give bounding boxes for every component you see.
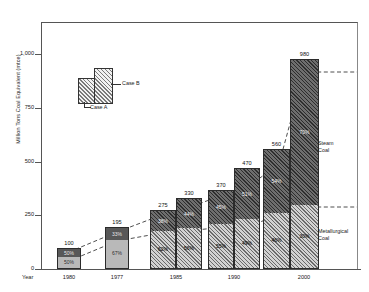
segment-steam-percent: 50% <box>64 251 74 256</box>
bar-1990-case-b[interactable]: 51%49% <box>234 168 260 269</box>
segment-metallurgical-coal: 67% <box>106 240 128 268</box>
bar-total-label-1990-case-a: 370 <box>208 182 234 188</box>
steam-coal-annotation-line1: Steam <box>318 140 334 147</box>
bar-total-label-1977-case-a: 195 <box>105 219 129 225</box>
x-tick-label-1985: 1985 <box>160 274 192 280</box>
segment-steam-coal: 44% <box>177 199 201 230</box>
bar-total-label-2000-case-a: 560 <box>263 141 290 147</box>
legend-label-case-b: Case B <box>122 80 140 86</box>
x-tick-label-1980: 1980 <box>53 274 85 280</box>
bar-1985-case-a[interactable]: 38%62% <box>150 210 176 269</box>
bar-1980-case-a[interactable]: 50%50% <box>57 248 81 269</box>
segment-steam-coal: 45% <box>209 191 233 227</box>
segment-met-percent: 56% <box>184 246 194 251</box>
segment-metallurgical-coal: 49% <box>235 219 259 268</box>
segment-metallurgical-coal: 55% <box>209 224 233 268</box>
bar-1977-case-a[interactable]: 33%67% <box>105 227 129 269</box>
legend-swatch-case-b <box>94 68 113 104</box>
x-tick-label-1977: 1977 <box>101 274 133 280</box>
y-tick-mark <box>35 54 41 55</box>
legend-leader-case-b <box>111 84 121 85</box>
bar-total-label-1985-case-a: 275 <box>150 202 176 208</box>
y-tick-label: 750 <box>25 104 34 110</box>
steam-coal-annotation: Steam Coal <box>318 140 334 155</box>
met-coal-annotation-line1: Metallurgical <box>318 228 348 235</box>
bar-2000-case-a[interactable]: 54%46% <box>263 149 290 269</box>
bar-1990-case-a[interactable]: 45%55% <box>208 190 234 269</box>
segment-steam-coal: 38% <box>151 211 175 233</box>
y-tick-mark <box>35 108 41 109</box>
segment-steam-percent: 44% <box>184 212 194 217</box>
bar-total-label-1990-case-b: 470 <box>234 160 260 166</box>
x-axis-line <box>41 269 361 270</box>
x-tick-label-1990: 1990 <box>218 274 250 280</box>
segment-met-percent: 50% <box>64 260 74 265</box>
segment-met-percent: 46% <box>271 238 281 243</box>
segment-steam-percent: 70% <box>299 130 309 135</box>
bar-total-label-1980-case-a: 100 <box>57 240 81 246</box>
x-axis-title: Year <box>22 274 33 280</box>
segment-met-percent: 30% <box>299 234 309 239</box>
segment-met-percent: 62% <box>158 247 168 252</box>
y-tick-label: 1,000 <box>20 50 34 56</box>
segment-steam-percent: 33% <box>112 232 122 237</box>
segment-metallurgical-coal: 46% <box>264 213 289 268</box>
segment-metallurgical-coal: 30% <box>291 205 318 268</box>
segment-steam-coal: 51% <box>235 169 259 220</box>
segment-steam-coal: 54% <box>264 150 289 215</box>
y-tick-label: 500 <box>25 158 34 164</box>
y-tick-mark <box>35 162 41 163</box>
segment-steam-percent: 38% <box>158 219 168 224</box>
segment-met-percent: 67% <box>112 251 122 256</box>
y-tick-label: 0 <box>31 265 34 271</box>
segment-met-percent: 49% <box>242 241 252 246</box>
segment-metallurgical-coal: 50% <box>58 257 80 268</box>
y-tick-mark <box>35 215 41 216</box>
coal-demand-chart: Million Tons Coal Equivalent (mtce) 0250… <box>0 0 369 292</box>
bar-1985-case-b[interactable]: 44%56% <box>176 198 202 269</box>
metallurgical-coal-annotation: Metallurgical Coal <box>318 228 348 243</box>
bar-total-label-1985-case-b: 330 <box>176 190 202 196</box>
segment-steam-percent: 51% <box>242 192 252 197</box>
segment-steam-percent: 45% <box>216 205 226 210</box>
segment-met-percent: 55% <box>216 244 226 249</box>
bar-total-label-2000-case-b: 980 <box>290 51 319 57</box>
segment-metallurgical-coal: 62% <box>151 231 175 268</box>
bar-2000-case-b[interactable]: 70%30% <box>290 59 319 269</box>
x-tick-label-2000: 2000 <box>288 274 320 280</box>
legend-label-case-a: Case A <box>90 104 107 110</box>
segment-metallurgical-coal: 56% <box>177 228 201 268</box>
steam-coal-annotation-line2: Coal <box>318 147 334 154</box>
y-tick-mark <box>35 269 41 270</box>
segment-steam-percent: 54% <box>271 179 281 184</box>
y-tick-label: 250 <box>25 211 34 217</box>
segment-steam-coal: 70% <box>291 60 318 207</box>
met-coal-annotation-line2: Coal <box>318 235 348 242</box>
